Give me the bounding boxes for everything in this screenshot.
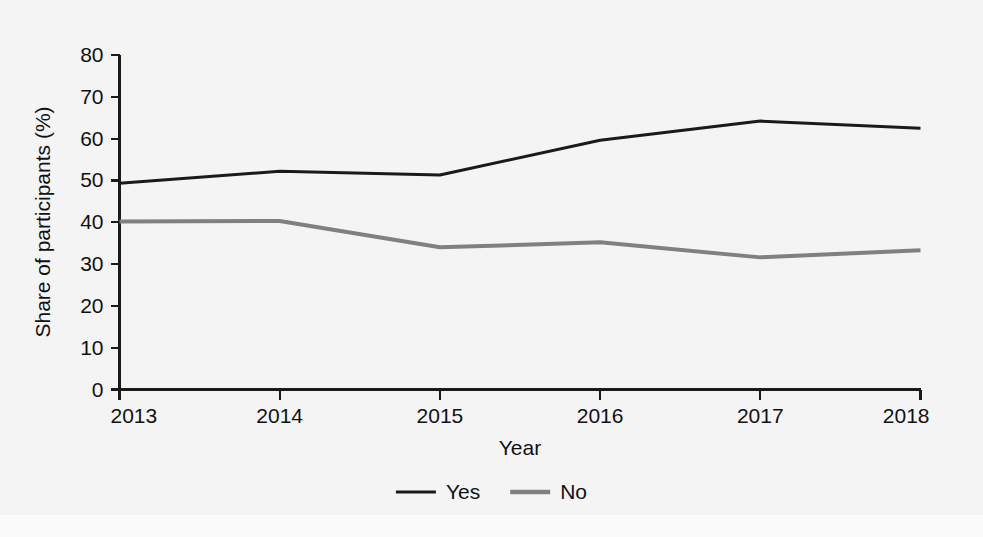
x-tick-label: 2015 bbox=[417, 404, 464, 427]
x-tick-label: 2014 bbox=[256, 404, 303, 427]
y-tick-label: 80 bbox=[80, 43, 103, 66]
y-tick-label: 20 bbox=[80, 294, 103, 317]
y-tick-label: 30 bbox=[80, 252, 103, 275]
x-tick-label: 2016 bbox=[577, 404, 624, 427]
x-axis-title: Year bbox=[499, 436, 541, 459]
series-line-no bbox=[120, 221, 921, 257]
x-tick-label: 2017 bbox=[737, 404, 784, 427]
y-axis-title: Share of participants (%) bbox=[31, 106, 54, 337]
y-tick-label: 70 bbox=[80, 85, 103, 108]
data-series-group bbox=[120, 121, 921, 257]
y-tick-label: 60 bbox=[80, 127, 103, 150]
x-tick-label: 2018 bbox=[883, 404, 930, 427]
y-tick-label: 50 bbox=[80, 168, 103, 191]
legend-label-no: No bbox=[560, 480, 587, 503]
x-tick-label: 2013 bbox=[111, 404, 158, 427]
y-tick-label: 40 bbox=[80, 210, 103, 233]
y-tick-label: 10 bbox=[80, 336, 103, 359]
series-line-yes bbox=[120, 121, 921, 183]
line-chart: 01020304050607080 2013201420152016201720… bbox=[0, 0, 983, 537]
x-axis-ticks bbox=[120, 390, 921, 400]
y-tick-label: 0 bbox=[92, 378, 104, 401]
chart-legend: YesNo bbox=[396, 480, 587, 503]
y-axis-tick-labels: 01020304050607080 bbox=[80, 43, 103, 401]
legend-label-yes: Yes bbox=[446, 480, 480, 503]
x-axis-tick-labels: 201320142015201620172018 bbox=[111, 404, 930, 427]
y-axis-ticks bbox=[111, 55, 120, 390]
chart-figure: 01020304050607080 2013201420152016201720… bbox=[0, 0, 983, 537]
